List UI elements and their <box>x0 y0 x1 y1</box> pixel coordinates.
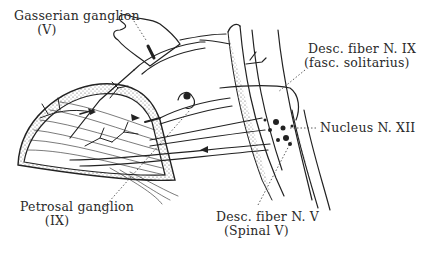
label-gasserian-line1: Gasserian ganglion <box>14 9 140 23</box>
label-petrosal-ganglion: Petrosal ganglion (IX) <box>20 200 134 228</box>
label-desc-ix-line1: Desc. fiber N. IX <box>308 42 416 56</box>
label-desc-v-line2: (Spinal V) <box>216 224 319 238</box>
label-desc-v-line1: Desc. fiber N. V <box>216 210 319 224</box>
label-desc-fiber-ix: Desc. fiber N. IX (fasc. solitarius) <box>308 42 416 70</box>
label-nucleus-xii: Nucleus N. XII <box>320 121 415 135</box>
label-petrosal-line1: Petrosal ganglion <box>20 200 134 214</box>
label-nucleus-line1: Nucleus N. XII <box>320 121 415 135</box>
label-petrosal-line2: (IX) <box>20 214 134 228</box>
label-gasserian-line2: (V) <box>14 23 140 37</box>
label-desc-fiber-v: Desc. fiber N. V (Spinal V) <box>216 210 319 238</box>
petrosal-ganglion <box>160 93 232 124</box>
label-gasserian-ganglion: Gasserian ganglion (V) <box>14 9 140 37</box>
label-desc-ix-line2: (fasc. solitarius) <box>304 56 416 70</box>
